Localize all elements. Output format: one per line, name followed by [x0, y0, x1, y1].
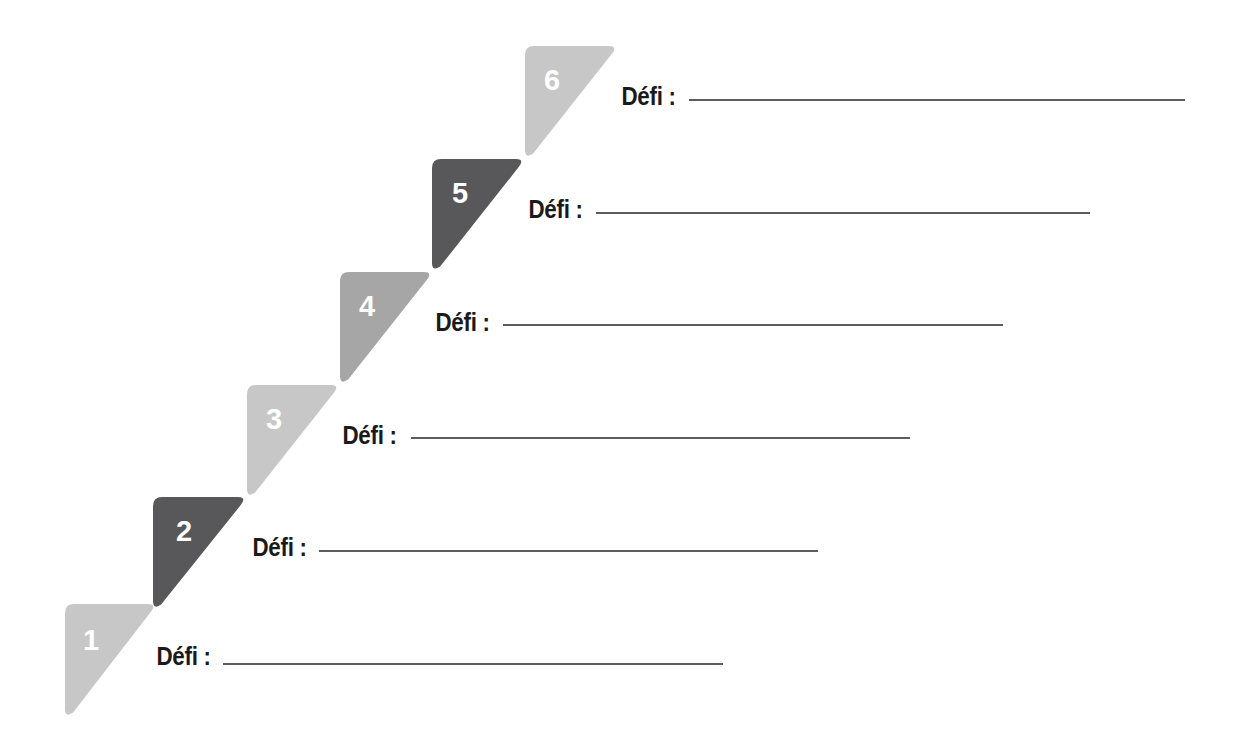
defi-answer-line-2[interactable] — [319, 550, 818, 552]
defi-row-2: Défi : — [248, 532, 311, 563]
defi-answer-line-6[interactable] — [689, 99, 1185, 101]
staircase-step-1: 1 — [65, 604, 157, 718]
staircase-step-2: 2 — [153, 497, 247, 610]
defi-label-4: Défi : — [435, 307, 489, 338]
step-number-6: 6 — [544, 66, 560, 95]
step-number-5: 5 — [452, 179, 468, 208]
staircase-step-4: 4 — [340, 272, 433, 385]
defi-label-1: Défi : — [156, 641, 210, 672]
step-number-3: 3 — [266, 405, 282, 434]
staircase-step-5: 5 — [432, 159, 525, 272]
staircase-step-3: 3 — [247, 385, 340, 498]
defi-answer-line-1[interactable] — [223, 663, 723, 665]
defi-row-5: Défi : — [524, 194, 587, 225]
defi-label-5: Défi : — [528, 194, 582, 225]
step-number-4: 4 — [359, 292, 375, 321]
defi-row-3: Défi : — [338, 420, 401, 451]
defi-label-6: Défi : — [621, 81, 675, 112]
step-triangle-1 — [65, 604, 157, 718]
defi-label-2: Défi : — [252, 532, 306, 563]
defi-row-1: Défi : — [152, 641, 215, 672]
step-triangle-3 — [247, 385, 340, 498]
step-triangle-6 — [525, 46, 618, 159]
defi-answer-line-4[interactable] — [503, 324, 1003, 326]
worksheet-canvas: 123456 Défi :Défi :Défi :Défi :Défi :Déf… — [0, 0, 1249, 753]
defi-answer-line-3[interactable] — [411, 437, 910, 439]
staircase-step-6: 6 — [525, 46, 618, 159]
defi-row-6: Défi : — [617, 81, 680, 112]
step-triangle-4 — [340, 272, 433, 385]
step-triangle-2 — [153, 497, 247, 610]
step-number-1: 1 — [83, 626, 99, 655]
defi-label-3: Défi : — [342, 420, 396, 451]
defi-row-4: Défi : — [431, 307, 494, 338]
step-triangle-5 — [432, 159, 525, 272]
step-number-2: 2 — [176, 517, 192, 546]
defi-answer-line-5[interactable] — [596, 212, 1090, 214]
